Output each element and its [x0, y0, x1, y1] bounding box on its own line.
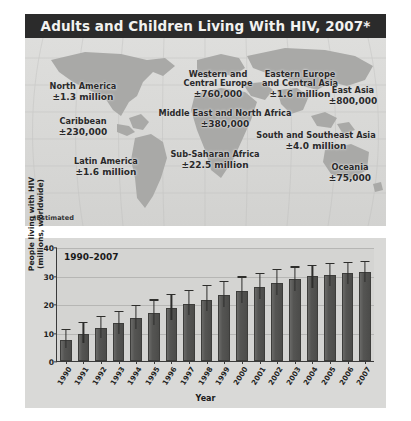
- x-tick-mark: [154, 361, 155, 364]
- error-bar-cap-upper: [237, 276, 246, 277]
- bar-group: 1999: [215, 248, 233, 361]
- error-bar-cap-upper: [79, 322, 88, 323]
- error-bar: [365, 262, 366, 283]
- error-bar-cap-upper: [61, 329, 70, 330]
- bar-group: 2005: [321, 248, 339, 361]
- error-bar: [83, 323, 84, 343]
- y-tick-mark: [54, 361, 57, 362]
- region-name: East Asia: [332, 85, 374, 95]
- map-label-oceania: Oceania ±75,000: [305, 163, 386, 183]
- map-title-bar: Adults and Children Living With HIV, 200…: [25, 14, 386, 38]
- bar-group: 1994: [127, 248, 145, 361]
- x-tick-mark: [189, 361, 190, 364]
- x-tick-label: 1990: [55, 365, 73, 387]
- error-bar-cap-upper: [202, 285, 211, 286]
- figure-root: Adults and Children Living With HIV, 200…: [0, 0, 411, 421]
- x-tick-label: 2002: [267, 365, 285, 387]
- error-bar: [241, 278, 242, 304]
- x-tick-label: 1992: [90, 365, 108, 387]
- x-tick-label: 2003: [284, 365, 302, 387]
- bar-group: 2007: [356, 248, 374, 361]
- y-tick-label: 40: [43, 244, 54, 253]
- bar: [324, 275, 336, 361]
- error-bar-cap-upper: [361, 261, 370, 262]
- x-tick-label: 1993: [108, 365, 126, 387]
- bar-group: 2000: [233, 248, 251, 361]
- error-bar: [171, 295, 172, 320]
- error-bar: [294, 268, 295, 292]
- error-bar-cap-upper: [185, 290, 194, 291]
- error-bar-cap-upper: [167, 294, 176, 295]
- error-bar: [277, 270, 278, 295]
- error-bar: [118, 312, 119, 334]
- x-tick-mark: [277, 361, 278, 364]
- region-name: Middle East and North Africa: [159, 108, 292, 118]
- x-tick-mark: [365, 361, 366, 364]
- x-tick-label: 2005: [319, 365, 337, 387]
- error-bar-cap-upper: [255, 273, 264, 274]
- x-tick-mark: [224, 361, 225, 364]
- x-tick-label: 2007: [355, 365, 373, 387]
- map-label-caribbean: Caribbean ±230,000: [33, 117, 133, 137]
- region-name: Western and Central Europe: [183, 69, 252, 89]
- bar-group: 1996: [163, 248, 181, 361]
- y-axis-title: People living with HIV (millions, worldw…: [27, 174, 49, 274]
- bar-group: 2002: [268, 248, 286, 361]
- region-name: North America: [50, 81, 117, 91]
- error-bar: [188, 291, 189, 316]
- error-bar: [100, 317, 101, 338]
- error-bar: [329, 264, 330, 285]
- region-value: ±800,000: [315, 96, 386, 107]
- error-bar-cap-upper: [149, 299, 158, 300]
- bar-series: 1990199119921993199419951996199719981999…: [57, 248, 374, 361]
- error-bar: [65, 330, 66, 348]
- error-bar: [312, 266, 313, 288]
- region-value: ±1.6 million: [51, 167, 161, 178]
- x-tick-label: 1995: [143, 365, 161, 387]
- y-tick-label: 0: [49, 358, 54, 367]
- x-tick-mark: [171, 361, 172, 364]
- x-tick-mark: [207, 361, 208, 364]
- error-bar-cap-upper: [273, 269, 282, 270]
- error-bar-cap-upper: [343, 262, 352, 263]
- bar-group: 2004: [304, 248, 322, 361]
- bar: [307, 276, 319, 361]
- bar-group: 2003: [286, 248, 304, 361]
- x-tick-label: 2001: [249, 365, 267, 387]
- region-name: Sub-Saharan Africa: [170, 149, 259, 159]
- bar-group: 1997: [180, 248, 198, 361]
- map-title: Adults and Children Living With HIV, 200…: [41, 18, 371, 34]
- x-tick-mark: [348, 361, 349, 364]
- region-value: ±380,000: [149, 119, 301, 130]
- error-bar: [206, 286, 207, 311]
- bar-group: 1991: [75, 248, 93, 361]
- x-tick-label: 2000: [231, 365, 249, 387]
- map-label-east-asia: East Asia ±800,000: [315, 86, 386, 106]
- error-bar: [224, 282, 225, 308]
- region-name: Oceania: [331, 162, 368, 172]
- bar: [342, 273, 354, 361]
- error-bar: [347, 263, 348, 284]
- error-bar-cap-upper: [290, 266, 299, 267]
- map-body: North America ±1.3 million Western and C…: [25, 38, 386, 226]
- x-tick-mark: [260, 361, 261, 364]
- x-tick-label: 1998: [196, 365, 214, 387]
- x-tick-mark: [66, 361, 67, 364]
- region-name: Latin America: [74, 156, 138, 166]
- bar: [359, 272, 371, 361]
- region-name: South and Southeast Asia: [256, 130, 375, 140]
- error-bar-cap-upper: [325, 263, 334, 264]
- x-tick-mark: [295, 361, 296, 364]
- x-tick-mark: [136, 361, 137, 364]
- x-tick-mark: [330, 361, 331, 364]
- hiv-trend-chart-panel: People living with HIV (millions, worldw…: [25, 238, 386, 408]
- error-bar-cap-upper: [308, 265, 317, 266]
- x-tick-mark: [119, 361, 120, 364]
- region-value: ±22.5 million: [151, 160, 279, 171]
- map-label-middle-east-north-africa: Middle East and North Africa ±380,000: [149, 109, 301, 129]
- region-value: ±230,000: [33, 127, 133, 138]
- x-tick-label: 1999: [214, 365, 232, 387]
- x-tick-label: 1994: [126, 365, 144, 387]
- bar-group: 2006: [339, 248, 357, 361]
- map-label-south-southeast-asia: South and Southeast Asia ±4.0 million: [247, 131, 385, 151]
